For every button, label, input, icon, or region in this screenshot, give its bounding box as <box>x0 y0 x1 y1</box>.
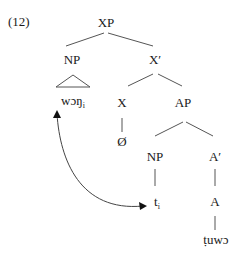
branch-xbar-x <box>128 74 153 86</box>
node-np-spec: NP <box>64 53 81 67</box>
moved-word-index: i <box>83 101 85 110</box>
node-x-bar: X′ <box>149 53 161 67</box>
node-xp: XP <box>98 16 115 30</box>
arrowhead-up-icon <box>53 110 61 118</box>
trace: ti <box>154 195 160 214</box>
movement-arrow-curve <box>57 114 143 206</box>
example-number: (12) <box>8 15 30 29</box>
branch-xp-xbar <box>108 33 153 46</box>
tree-branches <box>0 0 234 257</box>
node-ap: AP <box>175 96 192 110</box>
node-np-ap-spec: NP <box>147 150 164 164</box>
branch-xp-np <box>66 33 104 46</box>
moved-word: wɔŋi <box>61 94 85 113</box>
branch-ap-abar <box>186 122 213 136</box>
trace-index: i <box>158 202 160 211</box>
np-triangle <box>56 75 90 87</box>
branch-ap-np <box>155 122 183 136</box>
node-x-head: X <box>117 96 126 110</box>
node-a-head: A <box>210 195 219 209</box>
null-head: Ø <box>117 135 126 149</box>
node-a-bar: A′ <box>209 150 221 164</box>
moved-word-text: wɔŋ <box>61 93 83 108</box>
arrowhead-right-icon <box>139 202 147 210</box>
adjective-word: ṭuwɔ <box>203 233 228 247</box>
branch-xbar-ap <box>158 74 182 86</box>
